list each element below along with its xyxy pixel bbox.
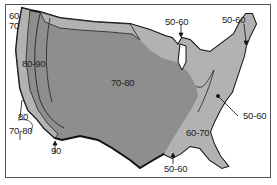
label-ca-70-80: 70-80 xyxy=(9,126,32,136)
label-zone-60-70: 60-70 xyxy=(186,128,209,138)
us-map xyxy=(0,0,277,185)
label-zone-80-90: 80-90 xyxy=(22,59,45,69)
label-new-england: 50-60 xyxy=(222,15,245,25)
label-nw-70: 70 xyxy=(9,21,19,31)
label-zone-70-80: 70-80 xyxy=(111,78,134,88)
label-gulf-coast: 50-60 xyxy=(164,164,187,174)
label-appalachia: 50-60 xyxy=(243,111,266,121)
label-ca-80: 80 xyxy=(18,112,28,122)
label-baja-90: 90 xyxy=(51,146,61,156)
label-great-lakes: 50-60 xyxy=(165,17,188,27)
